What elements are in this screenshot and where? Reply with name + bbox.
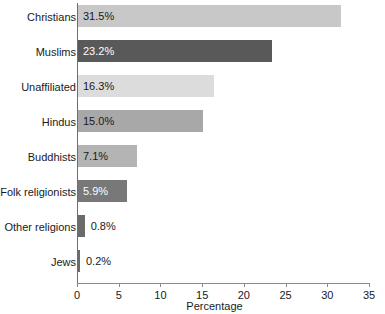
x-tick-30: [327, 283, 328, 287]
x-tick-20: [244, 283, 245, 287]
x-axis-title: Percentage: [0, 300, 385, 313]
bar-value-christians: 31.5%: [83, 8, 114, 24]
bar-christians: [78, 5, 341, 27]
category-label-jews: Jews: [0, 256, 76, 268]
category-label-buddhists: Buddhists: [0, 151, 76, 163]
bar-other-religions: [78, 215, 85, 237]
bar-value-unaffiliated: 16.3%: [83, 78, 114, 94]
x-tick-0: [77, 283, 78, 287]
x-tick-5: [119, 283, 120, 287]
bar-chart: Christians Muslims Unaffiliated Hindus B…: [0, 0, 385, 314]
category-label-other-religions: Other religions: [0, 221, 76, 233]
bar-jews: [78, 250, 80, 272]
x-axis-line: [77, 283, 369, 284]
category-label-muslims: Muslims: [0, 46, 76, 58]
bar-value-buddhists: 7.1%: [83, 148, 108, 164]
bar-value-folk-religionists: 5.9%: [83, 183, 108, 199]
bar-value-jews: 0.2%: [86, 253, 111, 269]
category-label-hindus: Hindus: [0, 116, 76, 128]
category-label-christians: Christians: [0, 11, 76, 23]
x-axis-title-text: Percentage: [186, 300, 242, 313]
x-tick-25: [286, 283, 287, 287]
x-tick-10: [160, 283, 161, 287]
category-label-folk-religionists: Folk religionists: [0, 186, 76, 198]
x-tick-35: [369, 283, 370, 287]
category-label-unaffiliated: Unaffiliated: [0, 81, 76, 93]
bar-value-other-religions: 0.8%: [91, 218, 116, 234]
bar-value-hindus: 15.0%: [83, 113, 114, 129]
bar-value-muslims: 23.2%: [83, 43, 114, 59]
x-tick-15: [202, 283, 203, 287]
y-axis-line: [77, 3, 78, 284]
